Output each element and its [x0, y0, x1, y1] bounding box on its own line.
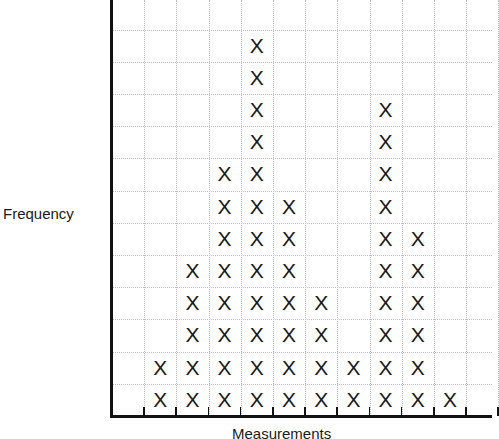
data-point-x-marker: X [370, 223, 402, 255]
data-point-x-marker: X [370, 255, 402, 287]
data-point-x-marker: X [209, 255, 241, 287]
data-point-x-marker: X [176, 287, 208, 319]
data-point-x-marker: X [370, 384, 402, 416]
grid-line-horizontal [112, 126, 492, 127]
data-point-x-marker: X [370, 287, 402, 319]
data-point-x-marker: X [209, 352, 241, 384]
data-point-x-marker: X [209, 191, 241, 223]
data-point-x-marker: X [370, 158, 402, 190]
data-point-x-marker: X [209, 287, 241, 319]
data-point-x-marker: X [434, 384, 466, 416]
x-axis-line [110, 415, 492, 418]
grid-line-horizontal [112, 30, 492, 31]
x-axis-tick [369, 407, 371, 416]
data-point-x-marker: X [402, 223, 434, 255]
data-point-x-marker: X [370, 191, 402, 223]
grid-line-horizontal [112, 158, 492, 159]
data-point-x-marker: X [402, 352, 434, 384]
data-point-x-marker: X [273, 255, 305, 287]
data-point-x-marker: X [209, 223, 241, 255]
x-axis-tick [401, 407, 403, 416]
y-axis-label: Frequency [3, 205, 74, 222]
data-point-x-marker: X [241, 30, 273, 62]
data-point-x-marker: X [176, 352, 208, 384]
data-point-x-marker: X [241, 62, 273, 94]
data-point-x-marker: X [305, 384, 337, 416]
data-point-x-marker: X [209, 158, 241, 190]
data-point-x-marker: X [176, 384, 208, 416]
data-point-x-marker: X [241, 384, 273, 416]
x-axis-tick [336, 407, 338, 416]
data-point-x-marker: X [241, 223, 273, 255]
x-axis-tick [465, 407, 467, 416]
data-point-x-marker: X [402, 384, 434, 416]
data-point-x-marker: X [209, 319, 241, 351]
x-axis-tick [208, 407, 210, 416]
data-point-x-marker: X [273, 352, 305, 384]
data-point-x-marker: X [241, 287, 273, 319]
data-point-x-marker: X [241, 191, 273, 223]
x-axis-tick [304, 407, 306, 416]
data-point-x-marker: X [402, 255, 434, 287]
data-point-x-marker: X [370, 126, 402, 158]
data-point-x-marker: X [176, 319, 208, 351]
data-point-x-marker: X [370, 319, 402, 351]
data-point-x-marker: X [273, 319, 305, 351]
data-point-x-marker: X [241, 319, 273, 351]
data-point-x-marker: X [337, 384, 369, 416]
data-point-x-marker: X [370, 352, 402, 384]
data-point-x-marker: X [273, 191, 305, 223]
data-point-x-marker: X [176, 255, 208, 287]
data-point-x-marker: X [241, 94, 273, 126]
x-axis-tick [143, 407, 145, 416]
data-point-x-marker: X [241, 158, 273, 190]
x-axis-tick [433, 407, 435, 416]
data-point-x-marker: X [305, 287, 337, 319]
data-point-x-marker: X [144, 384, 176, 416]
x-axis-tick [175, 407, 177, 416]
data-point-x-marker: X [370, 94, 402, 126]
data-point-x-marker: X [305, 352, 337, 384]
x-axis-tick [272, 407, 274, 416]
data-point-x-marker: X [305, 319, 337, 351]
data-point-x-marker: X [241, 352, 273, 384]
x-axis-tick [240, 407, 242, 416]
grid-line-horizontal [112, 62, 492, 63]
data-point-x-marker: X [402, 319, 434, 351]
x-axis-label: Measurements [232, 425, 331, 439]
grid-line-horizontal [112, 94, 492, 95]
data-point-x-marker: X [241, 255, 273, 287]
plot-area: XXXXXXXXXXXXXXXXXXXXXXXXXXXXXXXXXXXXXXXX… [112, 0, 492, 417]
data-point-x-marker: X [273, 384, 305, 416]
data-point-x-marker: X [337, 352, 369, 384]
data-point-x-marker: X [273, 223, 305, 255]
data-point-x-marker: X [273, 287, 305, 319]
data-point-x-marker: X [209, 384, 241, 416]
y-axis-line [110, 0, 113, 418]
data-point-x-marker: X [241, 126, 273, 158]
data-point-x-marker: X [402, 287, 434, 319]
data-point-x-marker: X [144, 352, 176, 384]
